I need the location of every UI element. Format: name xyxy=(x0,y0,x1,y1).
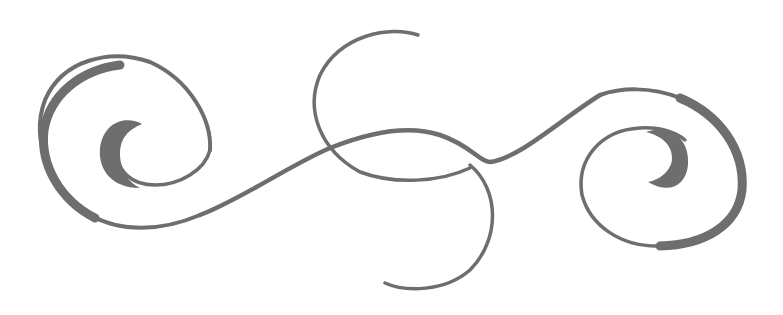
right-spiral-icon xyxy=(581,89,742,246)
flourish-svg xyxy=(0,0,783,315)
center-loop-icon xyxy=(314,31,492,288)
connecting-curve-icon xyxy=(200,95,600,215)
left-spiral-icon xyxy=(40,56,210,227)
flourish-ornament xyxy=(0,0,783,315)
